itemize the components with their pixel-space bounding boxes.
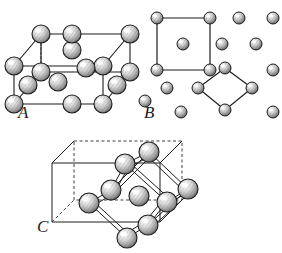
- atom: [115, 154, 135, 174]
- atom: [151, 64, 163, 76]
- atom: [267, 106, 279, 118]
- atom: [192, 82, 204, 94]
- atom: [101, 180, 121, 200]
- atom: [250, 38, 262, 50]
- panel-b-drawing: [0, 0, 282, 127]
- atom: [233, 12, 245, 24]
- atom: [216, 38, 228, 50]
- atom: [151, 12, 163, 24]
- atom: [117, 228, 137, 248]
- panel-label-c: C: [37, 218, 48, 235]
- panel-b: B: [0, 0, 282, 127]
- atom: [129, 186, 149, 206]
- atom: [161, 82, 173, 94]
- atom: [139, 142, 159, 162]
- atom: [219, 62, 231, 74]
- atom: [219, 104, 231, 116]
- atom: [246, 82, 258, 94]
- atom: [157, 192, 177, 212]
- figure-root: A: [0, 0, 282, 253]
- atom-group-b: [139, 12, 279, 118]
- atom: [177, 38, 189, 50]
- atom: [175, 106, 187, 118]
- atom: [204, 64, 216, 76]
- panel-c: C: [0, 130, 282, 253]
- atom: [267, 12, 279, 24]
- atom-group-c: [79, 142, 198, 248]
- atom: [138, 215, 158, 235]
- atom: [267, 64, 279, 76]
- atom: [178, 179, 198, 199]
- atom: [204, 12, 216, 24]
- panel-label-b: B: [144, 104, 154, 121]
- atom: [79, 193, 99, 213]
